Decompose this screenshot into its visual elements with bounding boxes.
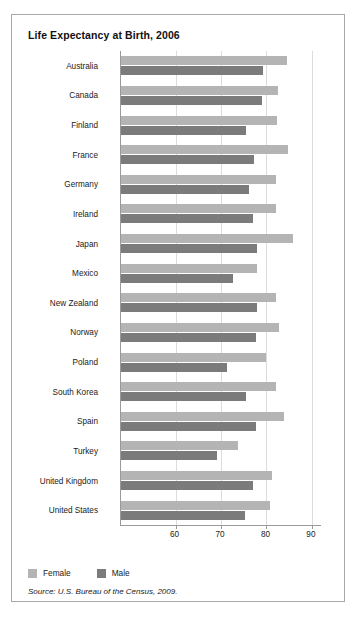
- legend-swatch-icon: [28, 569, 37, 578]
- bar-female: [121, 56, 287, 65]
- bar-male: [121, 214, 253, 223]
- legend-item-female: Female: [28, 568, 71, 578]
- y-axis-tick-label: Japan: [76, 239, 98, 248]
- y-axis-tick-label: Norway: [70, 328, 98, 337]
- y-axis-tick-label: Canada: [69, 91, 98, 100]
- bar-male: [121, 96, 262, 105]
- x-tick-mark: [266, 525, 267, 529]
- bar-female: [121, 204, 276, 213]
- bar-female: [121, 471, 272, 480]
- figure-frame: Life Expectancy at Birth, 2006 Australia…: [11, 14, 345, 602]
- x-gridline: [312, 51, 313, 525]
- bar-female: [121, 441, 238, 450]
- bar-female: [121, 501, 270, 510]
- bar-male: [121, 66, 263, 75]
- y-axis-tick-label: France: [73, 150, 98, 159]
- bar-male: [121, 244, 257, 253]
- bar-male: [121, 185, 249, 194]
- bar-male: [121, 155, 254, 164]
- y-axis-tick-label: Turkey: [73, 446, 98, 455]
- y-axis-tick-label: Germany: [64, 180, 98, 189]
- chart-plot-wrapper: AustraliaCanadaFinlandFranceGermanyIrela…: [28, 51, 330, 551]
- y-axis-tick-label: Australia: [66, 61, 98, 70]
- x-tick-label: 80: [261, 530, 270, 539]
- x-tick-label: 60: [170, 530, 179, 539]
- chart-title: Life Expectancy at Birth, 2006: [28, 29, 180, 41]
- legend-item-male: Male: [97, 568, 130, 578]
- bar-female: [121, 353, 266, 362]
- legend-label: Male: [112, 568, 130, 578]
- y-axis-tick-label: Ireland: [73, 209, 98, 218]
- legend-label: Female: [43, 568, 71, 578]
- chart-legend: FemaleMale: [28, 568, 130, 578]
- y-axis-tick-label: South Korea: [52, 387, 98, 396]
- bar-male: [121, 333, 256, 342]
- x-tick-label: 90: [306, 530, 315, 539]
- bar-female: [121, 412, 284, 421]
- y-axis-tick-label: Mexico: [72, 269, 98, 278]
- y-axis-tick-label: New Zealand: [50, 298, 98, 307]
- bar-male: [121, 511, 245, 520]
- y-axis-tick-label: United States: [49, 506, 98, 515]
- bar-female: [121, 234, 293, 243]
- bar-male: [121, 451, 217, 460]
- bar-female: [121, 382, 276, 391]
- bar-female: [121, 116, 277, 125]
- bar-female: [121, 86, 278, 95]
- bar-male: [121, 422, 256, 431]
- y-axis-tick-label: United Kingdom: [40, 476, 98, 485]
- bar-female: [121, 175, 276, 184]
- bar-female: [121, 264, 257, 273]
- bar-female: [121, 323, 279, 332]
- bar-male: [121, 363, 227, 372]
- y-axis-tick-label: Finland: [71, 121, 98, 130]
- bar-male: [121, 392, 246, 401]
- bar-female: [121, 293, 276, 302]
- bar-male: [121, 126, 246, 135]
- bar-female: [121, 145, 288, 154]
- x-tick-mark: [312, 525, 313, 529]
- bar-male: [121, 274, 233, 283]
- source-note: Source: U.S. Bureau of the Census, 2009.: [28, 587, 177, 596]
- legend-swatch-icon: [97, 569, 106, 578]
- y-axis-tick-label: Poland: [73, 358, 99, 367]
- plot-area: [120, 51, 321, 526]
- bar-male: [121, 303, 257, 312]
- y-axis-labels: AustraliaCanadaFinlandFranceGermanyIrela…: [28, 51, 104, 525]
- x-tick-mark: [176, 525, 177, 529]
- bar-male: [121, 481, 253, 490]
- x-tick-mark: [221, 525, 222, 529]
- y-axis-tick-label: Spain: [77, 417, 98, 426]
- x-tick-label: 70: [215, 530, 224, 539]
